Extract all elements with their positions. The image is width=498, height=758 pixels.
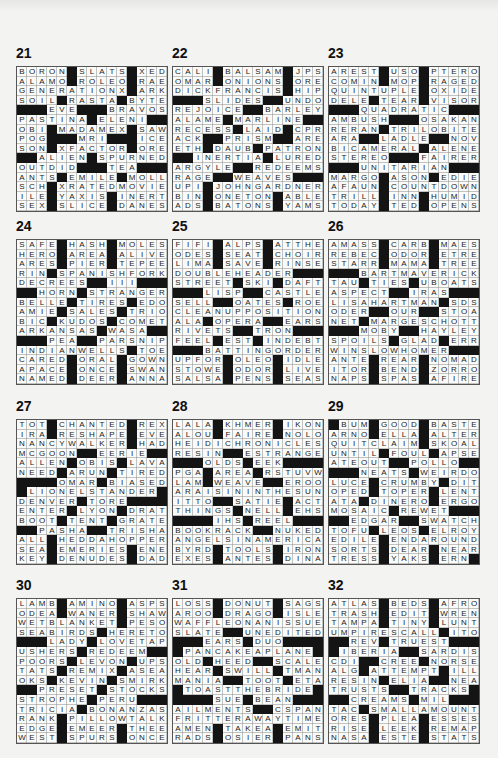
letter-cell: O xyxy=(253,77,263,87)
letter-cell: E xyxy=(97,609,107,619)
letter-cell: Y xyxy=(469,526,479,536)
letter-cell: F xyxy=(67,144,77,154)
black-square xyxy=(339,163,349,173)
black-square xyxy=(17,478,27,488)
black-square xyxy=(183,695,193,705)
letter-cell: L xyxy=(379,526,389,536)
letter-cell: T xyxy=(203,628,213,638)
letter-cell: D xyxy=(27,609,37,619)
letter-cell: R xyxy=(339,685,349,695)
black-square xyxy=(107,201,117,211)
letter-cell: T xyxy=(117,259,127,269)
letter-cell: A xyxy=(67,192,77,202)
letter-cell: R xyxy=(263,733,273,743)
black-square xyxy=(303,173,313,183)
black-square xyxy=(439,134,449,144)
letter-cell: T xyxy=(27,695,37,705)
letter-cell: E xyxy=(429,269,439,279)
letter-cell: S xyxy=(329,336,339,346)
letter-cell: L xyxy=(213,458,223,468)
letter-cell: I xyxy=(223,487,233,497)
letter-cell: T xyxy=(213,326,223,336)
letter-cell: O xyxy=(303,420,313,430)
letter-cell: U xyxy=(449,535,459,545)
letter-cell: G xyxy=(449,77,459,87)
letter-cell: T xyxy=(223,278,233,288)
black-square xyxy=(379,545,389,555)
letter-cell: N xyxy=(117,657,127,667)
letter-cell: A xyxy=(173,609,183,619)
letter-cell: R xyxy=(157,288,167,298)
letter-cell: R xyxy=(183,163,193,173)
letter-cell: P xyxy=(233,374,243,384)
letter-cell: T xyxy=(349,317,359,327)
letter-cell: T xyxy=(313,278,323,288)
letter-cell: S xyxy=(223,250,233,260)
letter-cell: L xyxy=(27,458,37,468)
letter-cell: I xyxy=(243,346,253,356)
letter-cell: S xyxy=(283,374,293,384)
letter-cell: M xyxy=(379,705,389,715)
letter-cell: C xyxy=(97,365,107,375)
letter-cell: E xyxy=(339,96,349,106)
letter-cell: I xyxy=(183,240,193,250)
black-square xyxy=(379,250,389,260)
letter-cell: R xyxy=(117,449,127,459)
letter-cell: T xyxy=(37,506,47,516)
black-square xyxy=(147,326,157,336)
letter-cell: B xyxy=(17,516,27,526)
letter-cell: H xyxy=(107,628,117,638)
letter-cell: L xyxy=(173,259,183,269)
letter-cell: E xyxy=(67,535,77,545)
letter-cell: R xyxy=(173,173,183,183)
letter-cell: G xyxy=(117,516,127,526)
letter-cell: A xyxy=(359,599,369,609)
letter-cell: E xyxy=(183,105,193,115)
letter-cell: P xyxy=(17,115,27,125)
black-square xyxy=(339,269,349,279)
letter-cell: O xyxy=(293,430,303,440)
letter-cell: C xyxy=(389,182,399,192)
letter-cell: N xyxy=(17,468,27,478)
letter-cell: E xyxy=(293,115,303,125)
letter-cell: L xyxy=(273,153,283,163)
letter-cell: M xyxy=(193,478,203,488)
black-square xyxy=(117,173,127,183)
letter-cell: I xyxy=(359,628,369,638)
letter-cell: E xyxy=(359,250,369,260)
letter-cell: N xyxy=(147,374,157,384)
letter-cell: B xyxy=(293,192,303,202)
letter-cell: B xyxy=(173,545,183,555)
letter-cell: E xyxy=(293,374,303,384)
black-square xyxy=(117,733,127,743)
letter-cell: N xyxy=(293,259,303,269)
black-square xyxy=(399,288,409,298)
black-square xyxy=(233,125,243,135)
letter-cell: I xyxy=(127,449,137,459)
letter-cell: L xyxy=(137,240,147,250)
letter-cell: M xyxy=(47,77,57,87)
letter-cell: E xyxy=(47,86,57,96)
letter-cell: T xyxy=(117,685,127,695)
letter-cell: N xyxy=(57,67,67,77)
letter-cell: A xyxy=(137,516,147,526)
letter-cell: I xyxy=(37,705,47,715)
letter-cell: A xyxy=(243,468,253,478)
letter-cell: I xyxy=(193,506,203,516)
letter-cell: H xyxy=(137,439,147,449)
letter-cell: E xyxy=(263,516,273,526)
letter-cell: T xyxy=(233,346,243,356)
letter-cell: W xyxy=(17,733,27,743)
letter-cell: L xyxy=(243,125,253,135)
letter-cell: P xyxy=(469,724,479,734)
letter-cell: B xyxy=(419,478,429,488)
black-square xyxy=(329,516,339,526)
black-square xyxy=(243,326,253,336)
letter-cell: O xyxy=(439,355,449,365)
letter-cell: L xyxy=(213,269,223,279)
letter-cell: I xyxy=(77,714,87,724)
letter-cell: I xyxy=(263,336,273,346)
letter-cell: O xyxy=(389,307,399,317)
black-square xyxy=(213,259,223,269)
letter-cell: T xyxy=(313,497,323,507)
